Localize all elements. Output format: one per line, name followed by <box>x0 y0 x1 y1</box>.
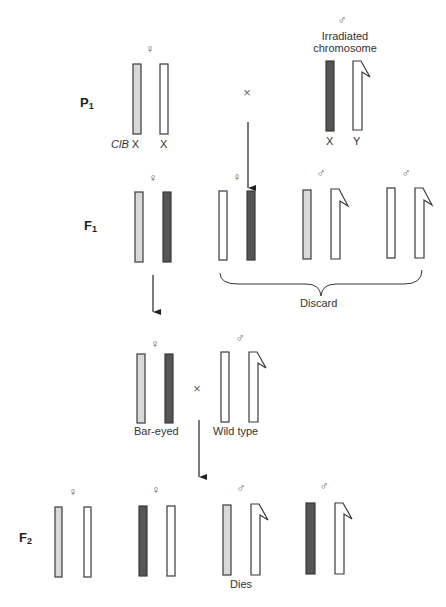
p1-male-symbol: ♂ <box>334 14 350 26</box>
f2-female1-clb-x-chromosome <box>55 507 62 577</box>
p1-female-clb-x-chromosome <box>133 64 141 134</box>
f1-male1-symbol: ♂ <box>313 167 329 179</box>
f2-male2-irradiated-x-chromosome <box>306 503 315 574</box>
p1-female-normal-x-chromosome <box>160 64 168 134</box>
p1-male-y-chromosome <box>353 61 370 130</box>
f2-female1-symbol: ♀ <box>65 486 81 498</box>
p1-male-x-label: X <box>326 135 333 147</box>
p1-generation-label: P1 <box>80 95 94 111</box>
cross2-female-irradiated-x-chromosome <box>165 354 173 423</box>
f1-male1-clb-x-chromosome <box>303 190 311 259</box>
bar-eyed-label: Bar-eyed <box>134 425 179 437</box>
p1-female-right-label: X <box>160 138 167 150</box>
f1-female1-irradiated-x-chromosome <box>163 192 171 262</box>
cross2-female-clb-x-chromosome <box>137 354 145 423</box>
p1-female-symbol: ♀ <box>142 43 158 55</box>
f2-female2-symbol: ♀ <box>148 484 164 496</box>
f1-male2-symbol: ♂ <box>398 167 414 179</box>
f1-female2-normal-x-chromosome <box>219 191 227 260</box>
f1-female2-symbol: ♀ <box>229 171 245 183</box>
cross2-female-symbol: ♀ <box>147 338 163 350</box>
p1-male-irradiated-x-chromosome <box>326 61 334 131</box>
f1-male2-y-chromosome <box>415 188 432 258</box>
dies-label: Dies <box>230 578 252 590</box>
f2-female2-irradiated-x-chromosome <box>139 506 147 576</box>
f1-male1-y-chromosome <box>331 189 348 259</box>
cross2-male-normal-x-chromosome <box>221 352 229 422</box>
cross2-cross-symbol: × <box>190 382 204 396</box>
f2-female1-normal-x-chromosome <box>84 507 91 577</box>
f2-generation-label: F2 <box>19 530 32 546</box>
f2-male2-symbol: ♂ <box>316 480 332 492</box>
f1-male2-normal-x-chromosome <box>387 188 395 258</box>
p1-female-left-label: ClB X <box>111 138 139 150</box>
discard-brace <box>220 270 422 296</box>
f2-male1-clb-x-chromosome <box>223 505 231 575</box>
cross2-male-y-chromosome <box>249 352 266 422</box>
f1-female1-symbol: ♀ <box>145 172 161 184</box>
p1-male-y-label: Y <box>353 135 360 147</box>
diagram-graphics <box>0 0 446 607</box>
f1-generation-label: F1 <box>84 218 97 234</box>
discard-label: Discard <box>300 297 337 309</box>
p1-cross-symbol: × <box>240 86 254 100</box>
f2-female2-normal-x-chromosome <box>167 506 175 576</box>
f1-female2-irradiated-x-chromosome <box>247 191 255 260</box>
f2-male2-y-chromosome <box>335 503 352 574</box>
f2-male1-y-chromosome <box>251 504 268 575</box>
irradiated-chromosome-caption: Irradiated chromosome <box>310 30 380 54</box>
wild-type-label: Wild type <box>213 425 258 437</box>
f2-male1-symbol: ♂ <box>233 482 249 494</box>
cross2-male-symbol: ♂ <box>232 332 248 344</box>
f1-female1-clb-x-chromosome <box>135 192 143 262</box>
